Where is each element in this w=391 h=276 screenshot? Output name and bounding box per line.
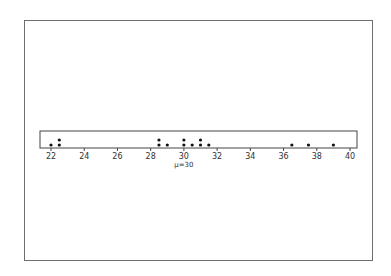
- data-dot: [207, 143, 210, 146]
- x-tick-label: 34: [245, 152, 255, 161]
- data-dot: [166, 143, 169, 146]
- x-tick-label: 22: [46, 152, 56, 161]
- data-dot: [49, 143, 52, 146]
- data-dot: [191, 143, 194, 146]
- x-tick-label: 24: [79, 152, 89, 161]
- data-dot: [182, 143, 185, 146]
- x-tick-label: 30: [179, 152, 189, 161]
- data-dot: [290, 143, 293, 146]
- data-dot: [307, 143, 310, 146]
- x-tick-label: 40: [345, 152, 355, 161]
- data-dot: [58, 138, 61, 141]
- mu-annotation: μ=30: [174, 161, 193, 169]
- data-dot: [157, 143, 160, 146]
- dot-plot: 22242628303234363840μ=30: [0, 0, 391, 276]
- x-tick-label: 36: [278, 152, 288, 161]
- data-dot: [157, 138, 160, 141]
- data-dot: [199, 138, 202, 141]
- data-dot: [58, 143, 61, 146]
- x-tick-label: 38: [312, 152, 322, 161]
- x-tick-label: 32: [212, 152, 222, 161]
- x-tick-label: 28: [146, 152, 156, 161]
- data-dot: [332, 143, 335, 146]
- data-dot: [182, 138, 185, 141]
- data-dot: [199, 143, 202, 146]
- x-tick-label: 26: [112, 152, 122, 161]
